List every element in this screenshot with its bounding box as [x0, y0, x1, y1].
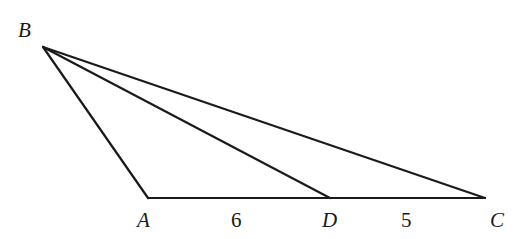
length-label-dc: 5 [401, 208, 412, 232]
segment-ba [43, 47, 148, 198]
triangle-diagram: B A D C 6 5 [0, 0, 532, 239]
segment-bd [43, 47, 330, 198]
vertex-label-b: B [18, 18, 31, 42]
vertex-label-c: C [490, 208, 505, 232]
segment-bc [43, 47, 485, 198]
length-label-ad: 6 [231, 208, 242, 232]
vertex-label-a: A [135, 208, 150, 232]
vertex-label-d: D [321, 208, 337, 232]
